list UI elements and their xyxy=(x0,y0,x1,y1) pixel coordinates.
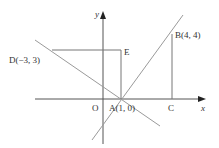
point-D-label: D(−3, 3) xyxy=(9,55,40,65)
coordinate-diagram: y x O A(1, 0) C B(4, 4) D(−3, 3) E xyxy=(0,0,219,148)
y-axis-label: y xyxy=(94,9,99,19)
y-axis-arrow-icon xyxy=(100,11,106,19)
x-axis-arrow-icon xyxy=(198,96,206,102)
x-axis-label: x xyxy=(200,103,205,113)
point-C-label: C xyxy=(168,103,174,113)
point-B-label: B(4, 4) xyxy=(175,30,201,40)
point-A-label: A(1, 0) xyxy=(109,103,135,113)
origin-label: O xyxy=(92,103,99,113)
line-through-A-descending xyxy=(35,40,160,126)
line-AB xyxy=(92,15,183,140)
point-E-label: E xyxy=(124,47,130,57)
